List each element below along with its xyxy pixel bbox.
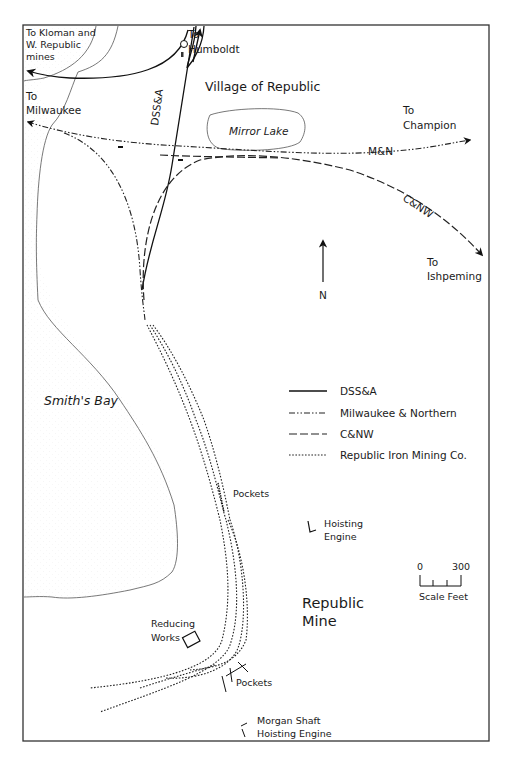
label-reducing-works-2: Works — [151, 632, 180, 643]
label-to-ishpeming: To — [426, 256, 438, 268]
scale-bar — [420, 575, 461, 586]
label-to-kloman-2: W. Republic — [26, 39, 81, 50]
north-label: N — [319, 289, 327, 301]
label-to-kloman: To Kloman and — [25, 27, 96, 38]
line-label-mn: M&N — [368, 145, 393, 157]
label-to-milwaukee: To — [25, 90, 37, 102]
label-morgan-shaft: Morgan Shaft — [257, 715, 321, 726]
label-smiths-bay: Smith's Bay — [44, 393, 119, 408]
railroad-map: N 0 300 Scale Feet DSS&A Milwaukee & Nor… — [0, 0, 509, 765]
label-to-champion-2: Champion — [403, 119, 456, 131]
label-village-of-republic: Village of Republic — [205, 79, 321, 94]
label-to-champion: To — [402, 104, 414, 116]
morgan-shaft-marker — [241, 723, 247, 737]
pockets-upper-marker — [218, 483, 224, 512]
cnw-marker — [178, 159, 183, 161]
label-reducing-works: Reducing — [151, 618, 195, 629]
label-to-ishpeming-2: Ishpeming — [427, 270, 482, 282]
label-hoisting-engine: Hoisting — [324, 518, 363, 529]
label-pockets-upper: Pockets — [233, 488, 269, 499]
north-arrow: N — [319, 241, 327, 301]
rim-track-4 — [190, 520, 247, 670]
scale-unit-label: Scale Feet — [419, 591, 468, 602]
line-label-dssa: DSS&A — [148, 87, 165, 126]
label-to-humboldt: To — [187, 28, 199, 40]
label-republic-mine-2: Mine — [302, 613, 337, 629]
mn-marker — [118, 146, 123, 148]
label-mirror-lake: Mirror Lake — [229, 125, 289, 137]
reducing-works-building — [182, 631, 200, 647]
label-morgan-shaft-2: Hoisting Engine — [257, 728, 332, 739]
line-label-cnw: C&NW — [401, 192, 436, 221]
hoisting-engine-marker — [308, 521, 316, 532]
dssa-main-line — [142, 27, 194, 290]
scale-max-label: 300 — [452, 561, 470, 572]
label-to-kloman-3: mines — [26, 51, 55, 62]
label-to-milwaukee-2: Milwaukee — [26, 104, 81, 116]
legend-label-cnw: C&NW — [340, 428, 374, 440]
label-republic-mine: Republic — [302, 595, 364, 611]
legend-label-dssa: DSS&A — [340, 385, 378, 397]
legend-label-rim: Republic Iron Mining Co. — [340, 449, 467, 461]
label-pockets-lower: Pockets — [236, 677, 272, 688]
legend-label-mn: Milwaukee & Northern — [340, 407, 457, 419]
label-hoisting-engine-2: Engine — [324, 531, 357, 542]
station-marker — [181, 41, 188, 48]
depot-marker — [181, 52, 184, 57]
scale-min-label: 0 — [417, 561, 423, 572]
legend: DSS&A Milwaukee & Northern C&NW Republic… — [289, 385, 467, 461]
mn-curve-south — [64, 133, 145, 320]
label-to-humboldt-2: Humboldt — [188, 43, 240, 55]
